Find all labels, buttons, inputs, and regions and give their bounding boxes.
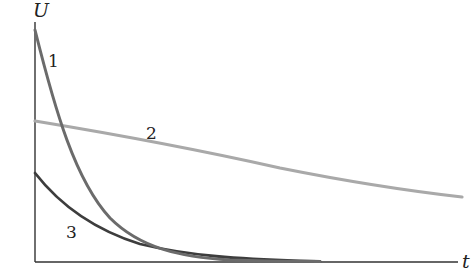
curve-2 [35, 121, 462, 197]
curve-2-label: 2 [146, 123, 157, 143]
curve-3 [35, 173, 320, 262]
x-axis-label: t [462, 250, 470, 272]
curve-1-label: 1 [48, 51, 59, 71]
curve-3-label: 3 [66, 222, 77, 242]
decay-curves-diagram: U t 1 2 3 [0, 0, 473, 275]
y-axis-label: U [33, 0, 50, 21]
